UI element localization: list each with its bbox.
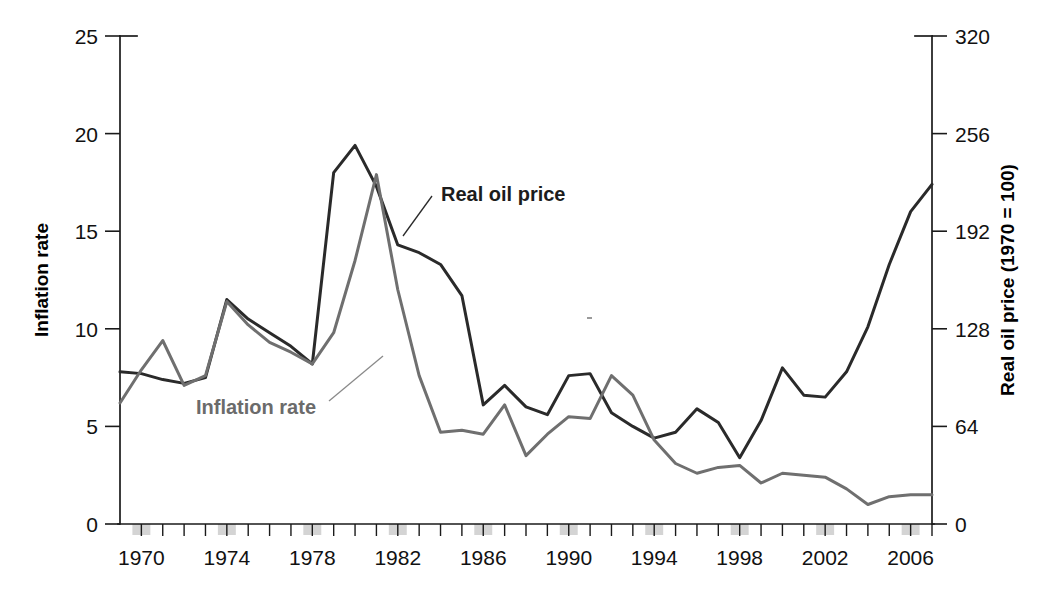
chart-figure: 0510152025 064128192256320 1970197419781… — [0, 0, 1050, 593]
x-axis-year-label: 1978 — [289, 546, 336, 569]
x-axis-year-label: 1970 — [118, 546, 165, 569]
x-axis-year-label: 1998 — [716, 546, 763, 569]
right-axis-tick-label: 256 — [955, 123, 990, 146]
left-axis-tick-label: 0 — [86, 513, 98, 536]
scan-speck — [587, 317, 592, 319]
left-axis-title: Inflation rate — [31, 223, 52, 337]
x-axis-year-label: 1994 — [631, 546, 678, 569]
left-axis-tick-label: 10 — [75, 318, 98, 341]
left-axis-ticks: 0510152025 — [75, 25, 120, 536]
right-axis-title: Real oil price (1970 = 100) — [997, 164, 1018, 396]
x-axis-year-label: 1990 — [545, 546, 592, 569]
x-axis-year-label: 2002 — [802, 546, 849, 569]
x-axis-year-label: 1982 — [374, 546, 421, 569]
series-line-inflation-rate — [120, 175, 932, 505]
x-axis-year-label: 1974 — [203, 546, 250, 569]
x-axis-ticks — [141, 524, 932, 536]
x-axis-labels: 1970197419781982198619901994199820022006 — [118, 546, 934, 569]
oil-annotation-label: Real oil price — [441, 183, 566, 205]
left-axis-tick-label: 20 — [75, 123, 98, 146]
inflation-oil-price-line-chart: 0510152025 064128192256320 1970197419781… — [0, 0, 1050, 593]
right-axis-tick-label: 192 — [955, 220, 990, 243]
inflation-annotation-leader-line — [329, 356, 383, 401]
x-axis-year-label: 2006 — [887, 546, 934, 569]
left-axis-tick-label: 15 — [75, 220, 98, 243]
oil-annotation-leader-line — [403, 196, 432, 236]
right-axis-tick-label: 128 — [955, 318, 990, 341]
right-axis-ticks: 064128192256320 — [932, 25, 990, 536]
right-axis-tick-label: 0 — [955, 513, 967, 536]
inflation-annotation-label: Inflation rate — [196, 396, 316, 418]
right-axis-tick-label: 320 — [955, 25, 990, 48]
left-axis-tick-label: 5 — [86, 415, 98, 438]
x-axis-year-label: 1986 — [460, 546, 507, 569]
left-axis-tick-label: 25 — [75, 25, 98, 48]
right-axis-tick-label: 64 — [955, 415, 979, 438]
